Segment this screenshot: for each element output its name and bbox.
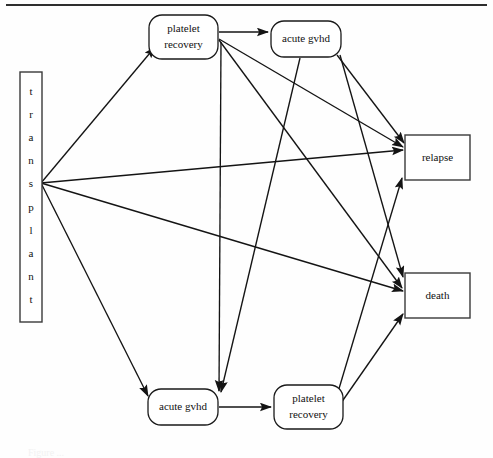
edge-platelet-recovery-bottom-to-death (341, 314, 403, 403)
node-death[interactable]: death (405, 273, 470, 318)
transplant-letter-10: t (29, 293, 32, 305)
edges-layer (41, 32, 404, 407)
transplant-letter-5: s (29, 177, 33, 189)
edge-transplant-to-acute-gvhd-bottom (41, 183, 148, 396)
node-platelet-recovery-top-label-line2: recovery (164, 38, 203, 50)
edge-platelet-recovery-top-to-acute-gvhd-bottom (219, 42, 221, 391)
edge-transplant-to-platelet-recovery-top (41, 47, 155, 183)
transplant-letter-1: t (29, 85, 32, 97)
transplant-letter-3: a (29, 131, 34, 143)
node-platelet-recovery-bottom-label-line2: recovery (289, 408, 328, 420)
node-platelet-recovery-bottom[interactable]: platelet recovery (274, 385, 343, 429)
edge-acute-gvhd-top-to-acute-gvhd-bottom (221, 58, 300, 392)
node-acute-gvhd-top[interactable]: acute gvhd (271, 21, 341, 57)
transplant-letter-4: n (28, 154, 34, 166)
node-transplant[interactable]: t r a n s p l a n t (20, 72, 42, 322)
edge-platelet-recovery-bottom-to-relapse (338, 178, 402, 392)
node-acute-gvhd-bottom[interactable]: acute gvhd (148, 389, 218, 425)
transplant-letter-8: a (29, 247, 34, 259)
transplant-letter-6: p (28, 201, 34, 213)
edge-transplant-to-relapse (41, 150, 403, 183)
node-platelet-recovery-top[interactable]: platelet recovery (149, 15, 218, 59)
node-acute-gvhd-top-label: acute gvhd (282, 32, 330, 44)
node-platelet-recovery-top-label-line1: platelet (167, 22, 199, 34)
node-platelet-recovery-bottom-label-line1: platelet (292, 392, 324, 404)
transplant-letter-2: r (29, 108, 33, 120)
node-relapse-label: relapse (422, 151, 453, 163)
edge-acute-gvhd-top-to-relapse (337, 55, 404, 143)
node-relapse[interactable]: relapse (405, 135, 470, 180)
multistate-model-diagram: t r a n s p l a n t platelet recovery ac… (0, 0, 493, 458)
figure-page: t r a n s p l a n t platelet recovery ac… (0, 0, 493, 458)
node-death-label: death (426, 289, 450, 301)
node-acute-gvhd-bottom-label: acute gvhd (159, 400, 207, 412)
transplant-letter-9: n (28, 270, 34, 282)
transplant-letter-7: l (29, 224, 32, 236)
figure-caption-partial: Figure ... (28, 447, 468, 458)
edge-transplant-to-death (41, 183, 403, 291)
edge-acute-gvhd-top-to-death (340, 55, 403, 277)
